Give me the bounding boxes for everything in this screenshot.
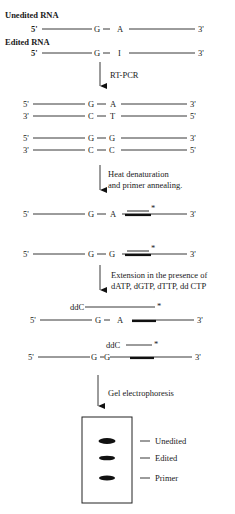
base: G [94, 48, 100, 58]
base: G [88, 133, 94, 143]
band-unedited [99, 438, 116, 444]
base: C [88, 111, 94, 121]
step-rt-pcr: RT-PCR [110, 70, 138, 80]
label-asterisk: * [157, 301, 161, 311]
three-prime: 3' [198, 48, 204, 58]
label-asterisk: * [154, 339, 158, 349]
five-prime: 5' [28, 352, 34, 362]
three-prime: 3' [190, 133, 196, 143]
five-prime: 5' [190, 145, 196, 155]
three-prime: 3' [190, 249, 196, 259]
base: C [109, 145, 115, 155]
three-prime: 3' [198, 24, 204, 34]
step-extension-1: Extension in the presence of [111, 270, 207, 280]
base: G [88, 209, 94, 219]
base: T [110, 111, 115, 121]
base: G [88, 249, 94, 259]
three-prime: 3' [190, 209, 196, 219]
label-asterisk: * [151, 243, 155, 253]
base: A [110, 99, 116, 109]
base: G [104, 352, 110, 362]
band-label-primer: Primer [155, 473, 178, 483]
three-prime: 3' [190, 99, 196, 109]
base: G [91, 352, 97, 362]
base: A [110, 209, 116, 219]
three-prime: 3' [195, 352, 201, 362]
edited-rna-label: Edited RNA [5, 37, 50, 47]
base: A [117, 24, 123, 34]
five-prime: 5' [31, 48, 38, 58]
label-asterisk: * [151, 203, 155, 213]
base: G [109, 133, 115, 143]
step-gel: Gel electrophoresis [108, 388, 174, 398]
band-label-edited: Edited [155, 453, 177, 463]
base: C [88, 145, 94, 155]
ddc-label: ddC [70, 302, 84, 312]
three-prime: 3' [23, 111, 29, 121]
base: G [94, 24, 100, 34]
step-heat-2: and primer annealing. [108, 180, 182, 190]
band-edited [99, 456, 115, 461]
five-prime: 5' [23, 133, 29, 143]
five-prime: 5' [23, 99, 29, 109]
band-primer [99, 475, 115, 480]
ddc-label: ddC [106, 340, 120, 350]
five-prime: 5' [31, 24, 38, 34]
five-prime: 5' [190, 111, 196, 121]
band-label-unedited: Unedited [155, 436, 186, 446]
three-prime: 3' [197, 315, 203, 325]
unedited-rna-label: Unedited RNA [5, 10, 59, 20]
step-heat-1: Heat denaturation [108, 169, 169, 179]
base: A [117, 315, 123, 325]
five-prime: 5' [23, 209, 29, 219]
five-prime: 5' [30, 315, 36, 325]
base: G [88, 99, 94, 109]
three-prime: 3' [23, 145, 29, 155]
step-extension-2: dATP, dGTP, dTTP, dd CTP [111, 281, 206, 291]
five-prime: 5' [23, 249, 29, 259]
base: I [118, 48, 121, 58]
base: G [109, 249, 115, 259]
base: G [95, 315, 101, 325]
